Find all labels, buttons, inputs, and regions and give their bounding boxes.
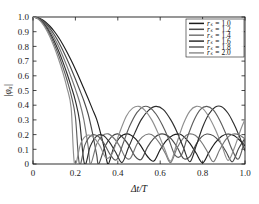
- legend: rₛ = 1.0rₛ = 1.2rₛ = 1.4rₛ = 1.6rₛ = 1.8…: [186, 19, 244, 58]
- x-tick-label: 0.8: [197, 168, 209, 178]
- x-tick-label: 0: [31, 168, 36, 178]
- x-tick-label: 0.6: [155, 168, 167, 178]
- y-tick-label: 0.9: [18, 27, 30, 37]
- y-tick-label: 0.5: [18, 86, 30, 96]
- correlation-line-chart: 00.20.40.60.81.000.10.20.30.40.50.60.70.…: [0, 0, 259, 204]
- legend-symbol-5: rₛ =: [207, 48, 222, 57]
- chart-figure: 00.20.40.60.81.000.10.20.30.40.50.60.70.…: [0, 0, 259, 204]
- legend-label-5: rₛ = 2.0: [207, 48, 231, 57]
- y-tick-label: 1.0: [18, 12, 30, 22]
- y-tick-label: 0.1: [18, 145, 29, 155]
- legend-value-5: 2.0: [222, 48, 232, 57]
- y-tick-label: 0.4: [18, 100, 30, 110]
- y-tick-label: 0: [25, 159, 30, 169]
- y-axis-title: |φₐ|: [3, 84, 13, 97]
- y-tick-label: 0.3: [18, 115, 30, 125]
- y-tick-label: 0.8: [18, 42, 30, 52]
- y-tick-label: 0.6: [18, 71, 30, 81]
- x-tick-label: 0.4: [112, 168, 124, 178]
- y-tick-label: 0.7: [18, 56, 30, 66]
- y-tick-label: 0.2: [18, 130, 29, 140]
- x-tick-label: 0.2: [70, 168, 81, 178]
- x-axis-title: Δt/T: [130, 184, 148, 194]
- x-tick-label: 1.0: [239, 168, 251, 178]
